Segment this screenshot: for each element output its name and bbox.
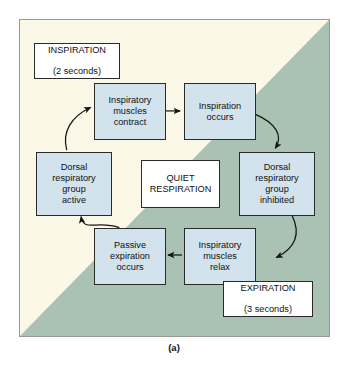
node-inspiration-occurs: Inspiration occurs — [184, 83, 256, 140]
arrow-inspiration-to-drg-inhibited — [255, 114, 278, 148]
arrow-passive-expiration-to-drg-active — [81, 217, 119, 228]
node-passive-expiration-occurs: Passive expiration occurs — [94, 228, 166, 285]
expiration-label-title: EXPIRATION — [224, 283, 312, 294]
expiration-phase-label: EXPIRATION (3 seconds) — [223, 281, 313, 317]
inspiration-label-title: INSPIRATION — [35, 45, 119, 56]
figure-caption: (a) — [0, 342, 348, 353]
inspiration-label-duration: (2 seconds) — [35, 66, 119, 77]
arrow-drg-active-to-contract — [65, 107, 90, 150]
node-dorsal-respiratory-group-active: Dorsal respiratory group active — [36, 152, 112, 216]
figure-panel: INSPIRATION (2 seconds) Inspiratory musc… — [19, 19, 330, 337]
center-title-quiet-respiration: QUIET RESPIRATION — [141, 160, 220, 208]
node-dorsal-respiratory-group-inhibited: Dorsal respiratory group inhibited — [239, 152, 315, 216]
expiration-label-duration: (3 seconds) — [224, 304, 312, 315]
arrow-drg-inhibited-to-relax — [276, 216, 296, 258]
inspiration-phase-label: INSPIRATION (2 seconds) — [34, 43, 120, 79]
node-inspiratory-muscles-contract: Inspiratory muscles contract — [94, 83, 166, 140]
